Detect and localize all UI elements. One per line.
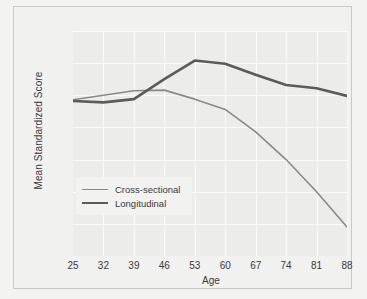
chart-legend: Cross-sectional Longitudinal bbox=[76, 177, 192, 215]
legend-item-cross-sectional: Cross-sectional bbox=[82, 182, 186, 196]
x-axis-label: Age bbox=[71, 275, 351, 286]
legend-label: Longitudinal bbox=[115, 198, 166, 209]
y-axis-label: Mean Standardized Score bbox=[33, 46, 44, 216]
series-lines bbox=[73, 31, 347, 256]
legend-label: Cross-sectional bbox=[115, 184, 180, 195]
plot-area bbox=[73, 31, 347, 256]
legend-line-icon-longitudinal bbox=[82, 202, 108, 204]
chart-frame: Mean Standardized Score Age 303540455055… bbox=[13, 6, 352, 289]
legend-line-icon-cross-sectional bbox=[82, 189, 108, 190]
x-tick-label: 88 bbox=[327, 260, 367, 271]
legend-item-longitudinal: Longitudinal bbox=[82, 196, 186, 210]
gridline-vertical bbox=[347, 31, 348, 256]
line-longitudinal bbox=[73, 61, 347, 103]
chart-figure: Mean Standardized Score Age 303540455055… bbox=[0, 0, 367, 299]
